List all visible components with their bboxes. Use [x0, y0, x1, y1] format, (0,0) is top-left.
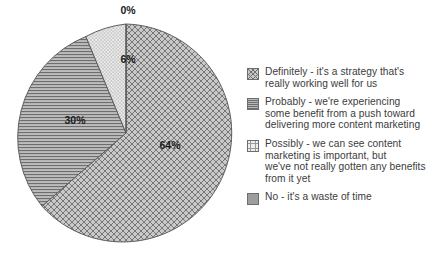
legend-item-possibly[interactable]: Possibly - we can see content marketing …	[247, 138, 443, 184]
legend-label-probably: Probably - we're experiencing some benef…	[265, 96, 420, 131]
legend-label-possibly: Possibly - we can see content marketing …	[265, 138, 426, 184]
slice-label-0: 0%	[120, 4, 136, 16]
slice-label-30: 30%	[64, 114, 86, 126]
legend-label-no: No - it's a waste of time	[265, 191, 372, 203]
slice-label-64: 64%	[159, 139, 181, 151]
legend-item-probably[interactable]: Probably - we're experiencing some benef…	[247, 96, 443, 131]
legend-item-definitely[interactable]: Definitely - it's a strategy that's real…	[247, 66, 443, 89]
legend-swatch-dots-icon	[247, 140, 259, 152]
slice-label-6: 6%	[120, 53, 136, 65]
chart-legend: Definitely - it's a strategy that's real…	[247, 66, 443, 212]
legend-item-no[interactable]: No - it's a waste of time	[247, 191, 443, 205]
pie-chart-figure: 64% 30% 6% 0% Definitely - it's a strate…	[0, 0, 446, 258]
legend-swatch-crosshatch-icon	[247, 68, 259, 80]
legend-swatch-hlines-icon	[247, 98, 259, 110]
legend-swatch-solid-icon	[247, 193, 259, 205]
legend-label-definitely: Definitely - it's a strategy that's real…	[265, 66, 404, 89]
